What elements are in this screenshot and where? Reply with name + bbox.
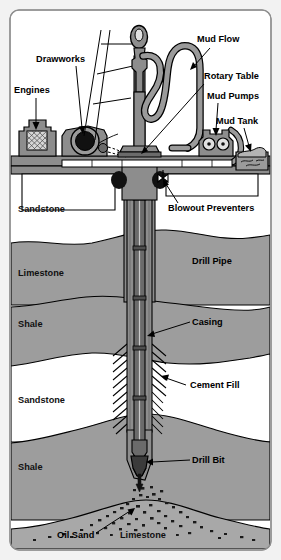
label-mud-flow: Mud Flow [197,34,240,44]
strata-label-sandstone-1: Sandstone [18,204,65,214]
drill-collar [132,440,147,458]
bop-ram-left [111,171,127,189]
strata-label-shale-1: Shale [18,319,43,329]
rotary-table-base [118,152,161,157]
label-rotary-table: Rotary Table [204,71,259,81]
kelly [134,92,145,152]
label-drill-pipe: Drill Pipe [192,256,232,266]
substructure-void-right [166,174,258,196]
bop-stack [122,166,157,200]
strata-label-limestone-2: Limestone [120,530,166,540]
mud-flowline-trough [62,160,232,167]
strata-label-limestone-1: Limestone [18,268,64,278]
label-mud-tank: Mud Tank [216,116,259,126]
label-oil-sand: Oil Sand [57,530,94,540]
drawworks-drum-inner [76,132,95,151]
strata-label-shale-2: Shale [18,462,43,472]
label-drill-bit: Drill Bit [192,455,225,465]
label-blowout-preventers: Blowout Preventers [168,203,254,213]
label-casing: Casing [192,317,223,327]
label-cement-fill: Cement Fill [190,380,240,390]
label-mud-pumps: Mud Pumps [207,91,259,101]
bail-eye [135,29,143,41]
rotary-table [120,146,159,152]
diagram-canvas: Engines Drawworks Mud Flow Rotary Table … [0,0,281,560]
drawworks-catline-spool [99,144,108,153]
drilling-rig-diagram: Engines Drawworks Mud Flow Rotary Table … [0,0,281,560]
label-engines: Engines [14,85,50,95]
label-drawworks: Drawworks [36,54,85,64]
strata-label-sandstone-2: Sandstone [18,395,65,405]
